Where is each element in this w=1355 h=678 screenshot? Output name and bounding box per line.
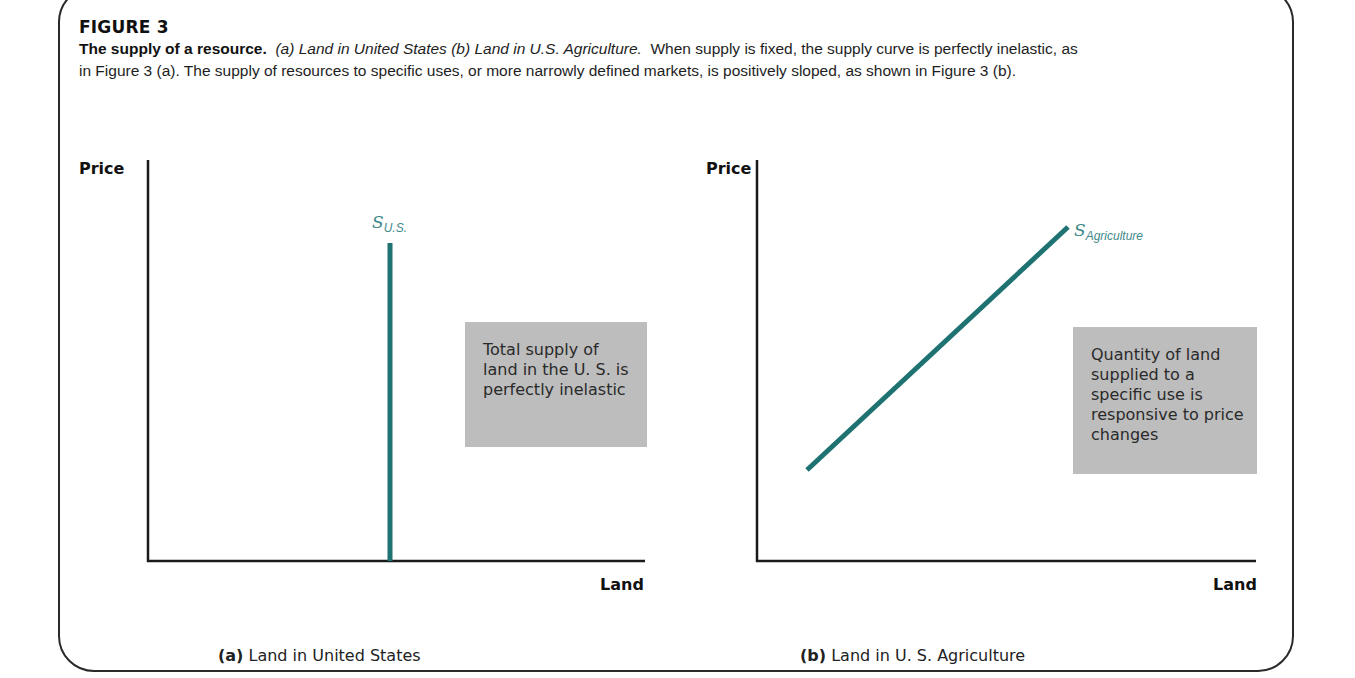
sublabel-text: Land in United States (243, 646, 420, 665)
sublabel-text: Land in U. S. Agriculture (826, 646, 1025, 665)
panel-b-sublabel: (b) Land in U. S. Agriculture (800, 646, 1025, 665)
panel-b-x-label: Land (1213, 575, 1257, 594)
curve-label-sub: U.S. (384, 221, 407, 235)
sublabel-letter: (a) (218, 646, 243, 665)
panel-a-sublabel: (a) Land in United States (218, 646, 421, 665)
curve-label-main: S (372, 212, 384, 232)
sublabel-letter: (b) (800, 646, 826, 665)
panel-b-supply-curve (807, 227, 1068, 470)
panel-b-y-label: Price (706, 159, 751, 178)
curve-label-sub: Agriculture (1086, 229, 1143, 243)
panel-a-y-label: Price (79, 159, 124, 178)
curve-label-main: S (1074, 220, 1086, 240)
panel-a-curve-label: SU.S. (372, 212, 407, 235)
panel-a-annotation-box: Total supply of land in the U. S. is per… (465, 322, 647, 447)
panel-a-x-label: Land (600, 575, 644, 594)
panel-b-annotation-box: Quantity of land supplied to a specific … (1073, 327, 1257, 474)
panel-b-curve-label: SAgriculture (1074, 220, 1143, 243)
